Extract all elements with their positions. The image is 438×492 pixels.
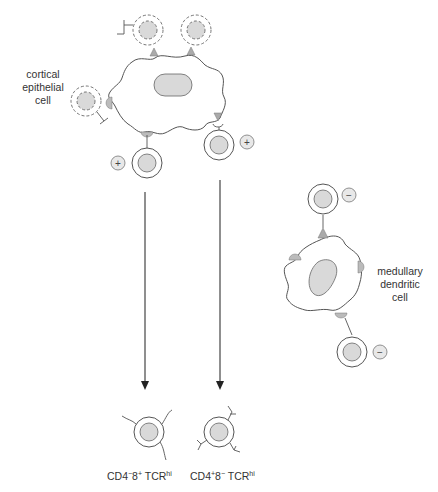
dying-thymocyte-1	[133, 15, 163, 45]
mature-cd8-t-cell	[122, 410, 172, 460]
cortical-epithelial-cell-label: cortical epithelial cell	[16, 68, 70, 107]
mature-cd4-t-cell	[197, 406, 240, 452]
medullary-dendritic-cell-label: medullary dendritic cell	[372, 265, 428, 304]
svg-text:−: −	[377, 347, 383, 358]
positive-thymocyte-right	[204, 130, 234, 160]
dying-thymocyte-3	[71, 86, 101, 116]
cd8-caption: CD4−8+ TCRhi	[107, 470, 172, 482]
cd4-caption: CD4+8− TCRhi	[190, 470, 255, 482]
svg-text:−: −	[346, 190, 352, 201]
dying-thymocyte-2	[181, 15, 211, 45]
cortical-nucleus	[154, 74, 192, 96]
negative-thymocyte-top	[308, 184, 338, 214]
svg-text:+: +	[115, 158, 121, 169]
svg-text:+: +	[244, 137, 250, 148]
positive-thymocyte-left	[132, 148, 162, 178]
negative-thymocyte-bottom	[337, 337, 367, 367]
